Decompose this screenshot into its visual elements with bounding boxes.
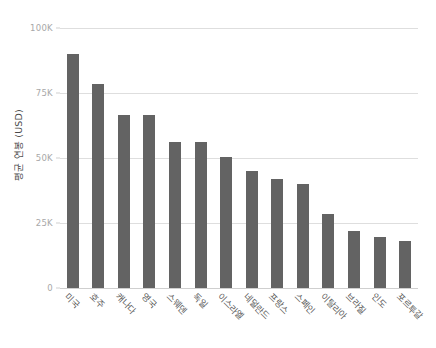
x-axis-label: 네덜란드: [241, 290, 273, 322]
bar-slot: [316, 28, 342, 288]
x-axis-label: 이스라엘: [215, 290, 247, 322]
bar[interactable]: [348, 231, 360, 288]
bar-chart: 평균 연봉 (USD) 025K50K75K100K 미국호주캐나다영국스웨덴독…: [0, 0, 436, 348]
bar[interactable]: [297, 184, 309, 288]
bar-slot: [341, 28, 367, 288]
x-axis-label: 스페인: [292, 290, 318, 316]
bar-slot: [188, 28, 214, 288]
x-axis-label: 인도: [368, 290, 389, 311]
y-tick-label: 0: [47, 283, 53, 293]
bar-slot: [86, 28, 112, 288]
bar-slot: [290, 28, 316, 288]
bar[interactable]: [271, 179, 283, 288]
bar[interactable]: [92, 84, 104, 288]
x-axis-label: 포르투갈: [394, 290, 426, 322]
y-tick-label: 25K: [36, 218, 53, 228]
x-axis-label: 스웨덴: [164, 290, 190, 316]
bar-slot: [213, 28, 239, 288]
y-axis-title: 평균 연봉 (USD): [0, 0, 36, 290]
x-axis-label: 이탈리아: [317, 290, 349, 322]
bar[interactable]: [399, 241, 411, 288]
y-tick-label: 50K: [36, 153, 53, 163]
x-axis-label: 캐나다: [113, 290, 139, 316]
plot-area: 025K50K75K100K: [60, 28, 418, 288]
bar[interactable]: [322, 214, 334, 288]
gridline: [60, 288, 418, 289]
y-tick-label: 75K: [36, 88, 53, 98]
x-axis-label: 호주: [87, 290, 108, 311]
bar[interactable]: [195, 142, 207, 288]
bar[interactable]: [220, 157, 232, 288]
bar-slot: [265, 28, 291, 288]
bar[interactable]: [143, 115, 155, 288]
x-axis-label: 미국: [62, 290, 83, 311]
bar-slot: [367, 28, 393, 288]
bar[interactable]: [118, 115, 130, 288]
bar-slot: [162, 28, 188, 288]
bar-slot: [392, 28, 418, 288]
bar[interactable]: [67, 54, 79, 288]
bar-slot: [137, 28, 163, 288]
bar-slot: [111, 28, 137, 288]
bar[interactable]: [169, 142, 181, 288]
bar-slot: [239, 28, 265, 288]
y-tick-label: 100K: [30, 23, 53, 33]
x-axis-label: 독일: [189, 290, 210, 311]
x-axis-labels: 미국호주캐나다영국스웨덴독일이스라엘네덜란드프랑스스페인이탈리아브라질인도포르투…: [60, 290, 418, 348]
y-axis-title-text: 평균 연봉 (USD): [11, 109, 25, 181]
bar[interactable]: [246, 171, 258, 288]
x-axis-label: 영국: [138, 290, 159, 311]
bar-slot: [60, 28, 86, 288]
bar[interactable]: [374, 237, 386, 288]
bar-series: [60, 28, 418, 288]
